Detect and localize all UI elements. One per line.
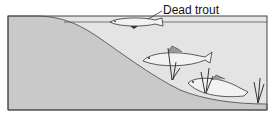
lake-cross-section-diagram [0, 0, 271, 121]
dead-trout-label: Dead trout [163, 3, 219, 17]
